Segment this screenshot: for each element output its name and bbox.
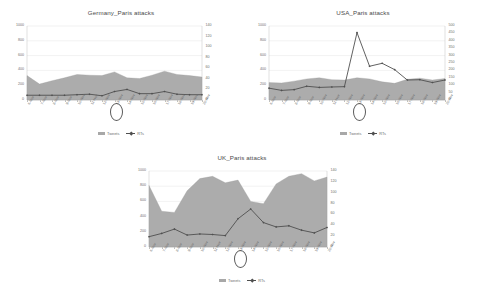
- legend-uk: Tweets RTs: [120, 278, 364, 283]
- y-axis-left-tick: 800: [128, 184, 146, 188]
- y-axis-right-tick: 150: [449, 76, 469, 80]
- y-axis-left-tick: 600: [248, 54, 266, 58]
- y-axis-left-tick: 400: [6, 68, 24, 72]
- highlight-ellipse-13-nov: [353, 103, 366, 121]
- y-axis-right-tick: 120: [331, 180, 351, 184]
- legend-label-tweets: Tweets: [107, 131, 119, 136]
- legend-usa: Tweets RTs: [242, 131, 484, 136]
- chart-germany: Germany_Paris attacks Tweets RTs 0200400…: [0, 0, 242, 145]
- y-axis-right-tick: 350: [449, 46, 469, 50]
- y-axis-right-tick: 20: [206, 87, 226, 91]
- y-axis-right-tick: 200: [449, 68, 469, 72]
- legend-label-tweets: Tweets: [349, 131, 361, 136]
- y-axis-left-tick: 0: [6, 98, 24, 102]
- y-axis-left-tick: 600: [6, 54, 24, 58]
- y-axis-right-tick: 250: [449, 61, 469, 65]
- y-axis-right-tick: 120: [206, 35, 226, 39]
- chart-usa: USA_Paris attacks Tweets RTs 02004006008…: [242, 0, 484, 145]
- plot-svg: [27, 26, 202, 100]
- y-axis-left-tick: 0: [248, 98, 266, 102]
- legend-germany: Tweets RTs: [0, 131, 242, 136]
- y-axis-right-tick: 40: [331, 223, 351, 227]
- legend-item-tweets: Tweets: [219, 278, 240, 283]
- y-axis-right-tick: 100: [206, 45, 226, 49]
- y-axis-left-tick: 0: [128, 245, 146, 249]
- plot-area-uk: [149, 171, 327, 247]
- y-axis-left-tick: 800: [6, 39, 24, 43]
- chart-title-germany: Germany_Paris attacks: [0, 9, 242, 16]
- legend-label-rts: RTs: [258, 278, 265, 283]
- legend-item-tweets: Tweets: [98, 131, 119, 136]
- y-axis-left-tick: 400: [128, 215, 146, 219]
- y-axis-left-tick: 800: [248, 39, 266, 43]
- y-axis-right-tick: 80: [331, 202, 351, 206]
- chart-uk: UK_Paris attacks Tweets RTs 020040060080…: [120, 145, 364, 290]
- area-swatch-icon: [98, 132, 105, 135]
- plot-svg: [269, 26, 445, 100]
- area-swatch-icon: [340, 132, 347, 135]
- y-axis-left-tick: 1000: [248, 24, 266, 28]
- y-axis-right-tick: 60: [331, 212, 351, 216]
- y-axis-right-tick: 100: [331, 191, 351, 195]
- legend-item-tweets: Tweets: [340, 131, 361, 136]
- plot-svg: [149, 171, 327, 247]
- line-marker-swatch-icon: [368, 132, 377, 135]
- chart-title-uk: UK_Paris attacks: [120, 154, 364, 161]
- y-axis-right-tick: 100: [449, 83, 469, 87]
- y-axis-left-tick: 400: [248, 68, 266, 72]
- y-axis-right-tick: 60: [206, 66, 226, 70]
- series-area-tweets: [149, 174, 327, 247]
- charts-board: Germany_Paris attacks Tweets RTs 0200400…: [0, 0, 484, 290]
- plot-area-usa: [269, 26, 445, 100]
- y-axis-right-tick: 140: [331, 169, 351, 173]
- y-axis-left-tick: 600: [128, 199, 146, 203]
- y-axis-left-tick: 1000: [6, 24, 24, 28]
- line-marker-swatch-icon: [126, 132, 135, 135]
- y-axis-left-tick: 200: [128, 230, 146, 234]
- y-axis-right-tick: 80: [206, 56, 226, 60]
- legend-label-rts: RTs: [379, 131, 386, 136]
- plot-area-germany: [27, 26, 202, 100]
- y-axis-right-tick: 140: [206, 24, 226, 28]
- legend-label-rts: RTs: [137, 131, 144, 136]
- y-axis-right-tick: 400: [449, 39, 469, 43]
- highlight-ellipse-13-nov: [234, 250, 247, 268]
- line-marker-swatch-icon: [247, 279, 256, 282]
- legend-item-rts: RTs: [247, 278, 265, 283]
- legend-item-rts: RTs: [368, 131, 386, 136]
- chart-title-usa: USA_Paris attacks: [242, 9, 484, 16]
- y-axis-right-tick: 500: [449, 24, 469, 28]
- y-axis-right-tick: 450: [449, 31, 469, 35]
- highlight-ellipse-13-nov: [110, 103, 123, 121]
- legend-item-rts: RTs: [126, 131, 144, 136]
- legend-label-tweets: Tweets: [228, 278, 240, 283]
- y-axis-right-tick: 40: [206, 77, 226, 81]
- y-axis-right-tick: 300: [449, 54, 469, 58]
- y-axis-left-tick: 200: [248, 83, 266, 87]
- y-axis-left-tick: 200: [6, 83, 24, 87]
- y-axis-right-tick: 20: [331, 234, 351, 238]
- y-axis-left-tick: 1000: [128, 169, 146, 173]
- area-swatch-icon: [219, 279, 226, 282]
